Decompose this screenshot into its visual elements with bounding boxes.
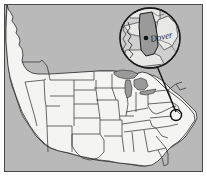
us-map-graphic: Dover xyxy=(0,0,207,180)
dover-city-dot xyxy=(144,36,149,41)
lake-huron-erie xyxy=(134,78,148,90)
lake-michigan xyxy=(125,80,132,98)
delaware-magnifier-inset: Dover xyxy=(120,8,180,68)
map-figure: Dover xyxy=(0,0,207,180)
